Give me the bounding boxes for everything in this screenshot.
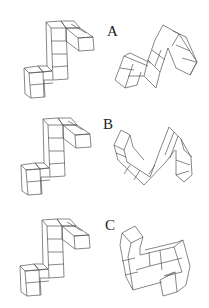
- row-b-rotated-figure: [114, 127, 192, 185]
- mental-rotation-figure: [0, 0, 209, 308]
- label-b: B: [103, 117, 113, 132]
- row-c-rotated-figure: [120, 226, 190, 296]
- row-a-reference-figure: [24, 21, 94, 98]
- row-c-reference-figure: [20, 219, 90, 296]
- label-c: C: [105, 218, 115, 233]
- row-a-rotated-figure: [115, 25, 197, 88]
- label-a: A: [107, 24, 118, 39]
- row-b-reference-figure: [21, 118, 91, 195]
